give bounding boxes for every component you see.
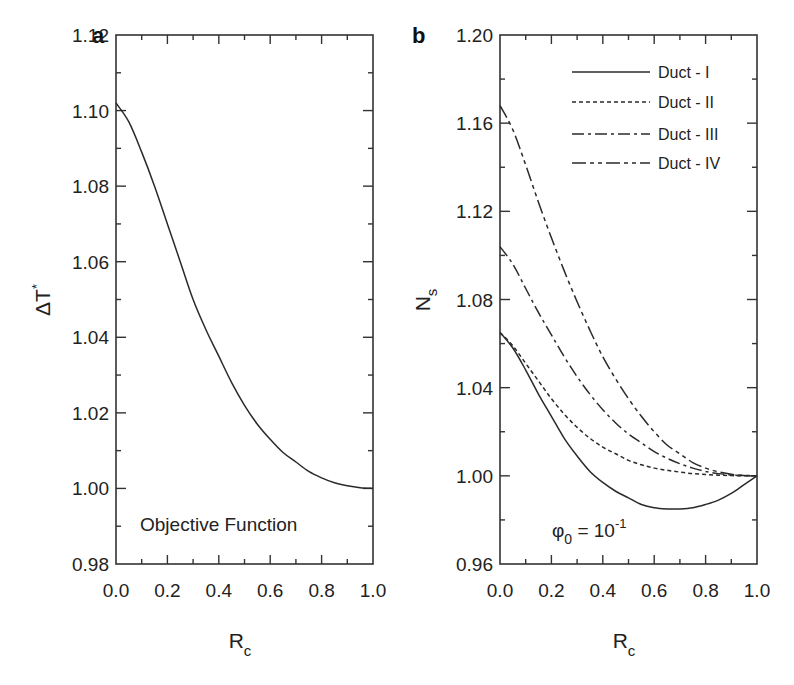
panel-a-x-tick-labels: 0.00.20.40.60.81.0 [103,580,386,601]
x-tick-label: 0.2 [538,580,564,601]
panel-a-x-axis-title: Rc [229,629,252,659]
figure: a 0.981.001.021.041.061.081.101.12 0.00.… [0,0,794,685]
objective-function-annotation: Objective Function [140,514,297,535]
y-tick-label: 1.12 [456,201,493,222]
y-tick-label: 1.20 [456,25,493,46]
panel-b-x-axis-title: Rc [613,629,636,659]
y-tick-label: 1.02 [72,403,109,424]
panel-b-label: b [412,23,425,48]
panel-a: a 0.981.001.021.041.061.081.101.12 0.00.… [29,23,386,659]
x-tick-label: 0.6 [641,580,667,601]
panel-b-y-axis-title: Ns [411,289,440,312]
svg-text:Ns: Ns [411,289,440,312]
y-tick-label: 1.12 [72,25,109,46]
panel-a-ticks [116,35,373,564]
legend-item: Duct - II [572,94,714,111]
panel-b-x-tick-labels: 0.00.20.40.60.81.0 [487,580,770,601]
x-title-main: R [613,629,628,652]
y-tick-label: 1.08 [72,176,109,197]
x-tick-label: 1.0 [744,580,770,601]
phi-annotation: φ0 = 10-1 [552,516,626,547]
legend-item: Duct - IV [572,155,721,172]
panel-a-y-tick-labels: 0.981.001.021.041.061.081.101.12 [72,25,109,575]
y-title-sup: * [29,284,44,289]
series-duct-ii [500,333,757,476]
panel-b-y-tick-labels: 0.961.001.041.081.121.161.20 [456,25,493,575]
legend-label: Duct - II [658,94,714,111]
y-tick-label: 1.16 [456,113,493,134]
x-title-main: R [229,629,244,652]
series-duct-i [500,333,757,509]
y-tick-label: 1.06 [72,252,109,273]
x-title-sub: c [628,642,636,659]
legend-label: Duct - IV [658,155,721,172]
x-tick-label: 0.8 [692,580,718,601]
x-title-sub: c [244,642,252,659]
phi-main: φ [552,520,564,541]
x-tick-label: 0.6 [257,580,283,601]
y-title-main: ΔT [31,289,54,316]
x-tick-label: 1.0 [360,580,386,601]
legend-item: Duct - III [572,126,718,143]
panel-a-frame [116,35,373,564]
phi-sub: 0 [564,531,572,547]
phi-sup: -1 [615,516,627,531]
legend-item: Duct - I [572,64,710,81]
panel-b-frame [500,35,757,564]
phi-rest: = 10 [572,520,615,541]
y-tick-label: 0.98 [72,554,109,575]
panel-b-ticks [500,35,757,564]
legend-label: Duct - III [658,126,718,143]
y-tick-label: 1.00 [72,478,109,499]
y-tick-label: 0.96 [456,554,493,575]
x-tick-label: 0.4 [590,580,617,601]
series--t [116,103,373,488]
y-tick-label: 1.04 [72,327,109,348]
x-tick-label: 0.8 [308,580,334,601]
panel-a-y-axis-title: ΔT* [29,284,54,316]
y-tick-label: 1.00 [456,466,493,487]
x-tick-label: 0.4 [206,580,233,601]
y-tick-label: 1.10 [72,101,109,122]
panel-a-curves [116,103,373,488]
y-tick-label: 1.08 [456,290,493,311]
series-duct-iii [500,247,757,476]
svg-text:ΔT*: ΔT* [29,284,54,316]
panel-b: b 0.961.001.041.081.121.161.20 0.00.20.4… [411,23,770,659]
x-tick-label: 0.0 [103,580,129,601]
legend-label: Duct - I [658,64,710,81]
y-tick-label: 1.04 [456,378,493,399]
y-title-sub: s [423,289,440,297]
legend: Duct - IDuct - IIDuct - IIIDuct - IV [572,64,721,172]
x-tick-label: 0.2 [154,580,180,601]
y-title-main: N [411,296,434,311]
x-tick-label: 0.0 [487,580,513,601]
